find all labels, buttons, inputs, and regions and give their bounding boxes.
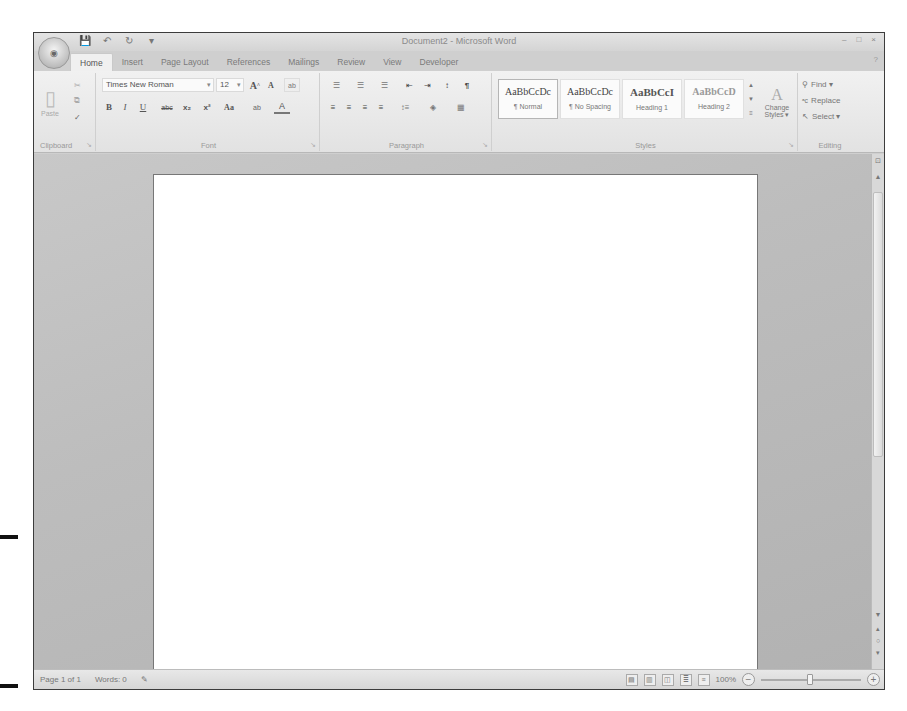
draft-view-icon[interactable]: ≡ — [698, 674, 710, 686]
numbering-button[interactable]: ☰ — [350, 78, 370, 92]
style-heading-2[interactable]: AaBbCcD Heading 2 — [684, 79, 744, 119]
zoom-slider-thumb[interactable] — [807, 674, 813, 685]
zoom-out-button[interactable]: − — [742, 673, 755, 686]
styles-label: Styles — [494, 141, 797, 150]
help-icon[interactable]: ? — [874, 55, 878, 64]
font-size-input[interactable]: 12▾ — [216, 78, 244, 92]
paste-button[interactable]: ▯ Paste — [38, 79, 62, 123]
copy-icon[interactable]: ⧉ — [70, 95, 84, 107]
full-screen-reading-icon[interactable]: ▥ — [644, 674, 656, 686]
maximize-icon[interactable]: □ — [856, 35, 861, 44]
clear-formatting-button[interactable]: ab — [284, 78, 300, 92]
highlight-button[interactable]: ab — [248, 100, 266, 114]
paragraph-group: ☰ ☰ ☰ ⇤ ⇥ ↕ ¶ ≡ ≡ ≡ ≡ ↕≡ ◈ ▦ Paragraph ↘ — [322, 73, 492, 151]
underline-button[interactable]: U — [136, 100, 150, 114]
center-button[interactable]: ≡ — [342, 100, 356, 114]
paste-icon: ▯ — [45, 86, 56, 110]
web-layout-icon[interactable]: ◫ — [662, 674, 674, 686]
document-area — [34, 154, 872, 671]
tab-insert[interactable]: Insert — [113, 53, 152, 71]
tab-developer[interactable]: Developer — [411, 53, 468, 71]
scroll-down-icon[interactable]: ▼ — [873, 610, 883, 620]
shrink-font-button[interactable]: A — [264, 78, 278, 92]
italic-button[interactable]: I — [118, 100, 132, 114]
styles-scroll-up-icon[interactable]: ▲ — [746, 79, 756, 91]
font-label: Font — [98, 141, 319, 150]
window-title: Document2 - Microsoft Word — [34, 36, 884, 46]
font-name-input[interactable]: Times New Roman▾ — [102, 78, 214, 92]
paragraph-label: Paragraph — [322, 141, 491, 150]
format-painter-icon[interactable]: ✓ — [70, 111, 84, 123]
paragraph-launcher-icon[interactable]: ↘ — [482, 141, 488, 149]
title-bar: 💾 ↶ ↻ ▾ Document2 - Microsoft Word – □ × — [34, 33, 884, 51]
styles-launcher-icon[interactable]: ↘ — [788, 141, 794, 149]
increase-indent-button[interactable]: ⇥ — [420, 78, 434, 92]
decrease-indent-button[interactable]: ⇤ — [402, 78, 416, 92]
editing-label: Editing — [800, 141, 860, 150]
ribbon-tabs: Home Insert Page Layout References Maili… — [70, 51, 467, 71]
zoom-level[interactable]: 100% — [716, 675, 736, 684]
tab-home[interactable]: Home — [70, 53, 113, 71]
show-formatting-marks-button[interactable]: ¶ — [460, 78, 474, 92]
styles-scroll-down-icon[interactable]: ▼ — [746, 93, 756, 105]
select-button[interactable]: ↖Select ▾ — [802, 109, 840, 123]
tab-page-layout[interactable]: Page Layout — [152, 53, 218, 71]
style-no-spacing[interactable]: AaBbCcDc ¶ No Spacing — [560, 79, 620, 119]
align-left-button[interactable]: ≡ — [326, 100, 340, 114]
change-styles-button[interactable]: A Change Styles ▾ — [760, 77, 794, 127]
tab-mailings[interactable]: Mailings — [279, 53, 328, 71]
status-bar: Page 1 of 1 Words: 0 ✎ ▤ ▥ ◫ ≣ ≡ 100% − … — [34, 669, 884, 689]
document-page[interactable] — [153, 174, 758, 674]
select-browse-object-icon[interactable]: ○ — [873, 636, 883, 646]
change-styles-icon: A — [771, 86, 783, 104]
superscript-button[interactable]: x² — [200, 100, 214, 114]
cut-icon[interactable]: ✂ — [70, 79, 84, 91]
find-button[interactable]: ⚲Find ▾ — [802, 77, 833, 91]
zoom-slider[interactable] — [761, 679, 861, 681]
multilevel-list-button[interactable]: ☰ — [374, 78, 394, 92]
ribbon: ▯ Paste ✂ ⧉ ✓ Clipboard ↘ Times New Roma… — [34, 71, 884, 153]
font-color-button[interactable]: A — [274, 100, 290, 114]
replace-button[interactable]: ᵃcReplace — [802, 93, 840, 107]
grow-font-button[interactable]: A^ — [248, 78, 262, 92]
scrollbar-thumb[interactable] — [873, 192, 883, 457]
tab-references[interactable]: References — [218, 53, 279, 71]
margin-marker-top — [0, 535, 18, 539]
strikethrough-button[interactable]: abc — [158, 100, 176, 114]
scroll-up-icon[interactable]: ▲ — [873, 172, 883, 182]
sort-button[interactable]: ↕ — [440, 78, 454, 92]
page-count[interactable]: Page 1 of 1 — [40, 675, 81, 684]
shading-button[interactable]: ◈ — [422, 100, 444, 114]
office-button[interactable]: ◉ — [38, 37, 70, 69]
ruler-toggle-icon[interactable]: ⊡ — [873, 156, 883, 166]
next-page-icon[interactable]: ▾ — [873, 648, 883, 658]
outline-view-icon[interactable]: ≣ — [680, 674, 692, 686]
styles-more-icon[interactable]: ≡ — [746, 107, 756, 119]
close-icon[interactable]: × — [871, 35, 876, 44]
vertical-scrollbar[interactable]: ⊡ ▲ ▼ ▴ ○ ▾ — [871, 154, 884, 671]
font-launcher-icon[interactable]: ↘ — [310, 141, 316, 149]
replace-icon: ᵃc — [802, 97, 808, 104]
borders-button[interactable]: ▦ — [450, 100, 472, 114]
align-right-button[interactable]: ≡ — [358, 100, 372, 114]
style-heading-1[interactable]: AaBbCcI Heading 1 — [622, 79, 682, 119]
bold-button[interactable]: B — [102, 100, 116, 114]
line-spacing-button[interactable]: ↕≡ — [394, 100, 416, 114]
justify-button[interactable]: ≡ — [374, 100, 388, 114]
word-count[interactable]: Words: 0 — [95, 675, 127, 684]
print-layout-view-icon[interactable]: ▤ — [626, 674, 638, 686]
tab-review[interactable]: Review — [328, 53, 374, 71]
tab-view[interactable]: View — [374, 53, 410, 71]
clipboard-launcher-icon[interactable]: ↘ — [86, 141, 92, 149]
editing-group: ⚲Find ▾ ᵃcReplace ↖Select ▾ Editing — [800, 73, 860, 151]
change-case-button[interactable]: Aa — [220, 100, 238, 114]
proofing-icon[interactable]: ✎ — [141, 675, 148, 684]
subscript-button[interactable]: x₂ — [180, 100, 194, 114]
previous-page-icon[interactable]: ▴ — [873, 624, 883, 634]
zoom-in-button[interactable]: + — [867, 673, 880, 686]
styles-group: AaBbCcDc ¶ Normal AaBbCcDc ¶ No Spacing … — [494, 73, 798, 151]
chevron-down-icon: ▾ — [207, 79, 211, 91]
bullets-button[interactable]: ☰ — [326, 78, 346, 92]
style-normal[interactable]: AaBbCcDc ¶ Normal — [498, 79, 558, 119]
minimize-icon[interactable]: – — [842, 35, 846, 44]
